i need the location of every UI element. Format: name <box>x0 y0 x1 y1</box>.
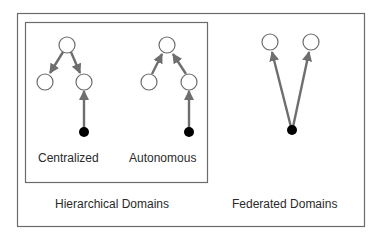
left-node <box>262 34 278 50</box>
root-node <box>159 37 175 53</box>
edge-right-to-root <box>173 54 186 74</box>
edge-root-to-left <box>50 52 63 73</box>
source-dot <box>287 125 297 135</box>
federated-graph <box>262 34 319 135</box>
right-node <box>181 74 197 90</box>
edge-source-to-left <box>272 52 291 127</box>
left-node <box>141 74 157 90</box>
right-node <box>303 34 319 50</box>
edge-root-to-right <box>71 52 80 73</box>
source-dot <box>184 127 194 137</box>
hierarchical-domains-label: Hierarchical Domains <box>55 197 169 211</box>
centralized-graph <box>37 37 92 137</box>
right-node <box>76 74 92 90</box>
edge-source-to-right <box>293 52 309 127</box>
centralized-label: Centralized <box>38 151 99 165</box>
autonomous-graph <box>141 37 197 137</box>
source-dot <box>79 127 89 137</box>
edge-left-to-root <box>152 54 162 74</box>
left-node <box>37 74 53 90</box>
autonomous-label: Autonomous <box>129 151 196 165</box>
root-node <box>59 37 75 53</box>
federated-domains-label: Federated Domains <box>232 197 337 211</box>
